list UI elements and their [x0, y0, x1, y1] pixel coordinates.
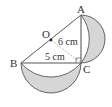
label-o: O [42, 28, 50, 40]
label-a: A [77, 3, 85, 15]
measure-oa: 6 cm [58, 36, 78, 47]
center-point-o [50, 39, 53, 42]
shaded-lune-ac [81, 15, 105, 63]
label-b: B [10, 57, 17, 69]
label-c: C [83, 63, 90, 75]
shaded-lune-bc [21, 63, 81, 93]
geometry-diagram: A O B C 6 cm 5 cm [0, 0, 112, 107]
measure-oc: 5 cm [45, 51, 65, 62]
